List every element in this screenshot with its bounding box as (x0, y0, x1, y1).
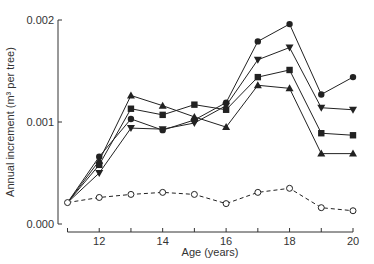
circle-marker-icon (286, 21, 292, 27)
square-marker-icon (223, 107, 229, 113)
circle-marker-icon (128, 116, 134, 122)
triangle-down-marker-icon (349, 107, 357, 114)
series-group (65, 21, 358, 214)
x-tick-label: 20 (347, 235, 359, 247)
circle-marker-icon (255, 38, 261, 44)
y-axis-label: Annual increment (m³ per tree) (4, 47, 16, 197)
chart: 0.0000.0010.0021214161820 Age (years) An… (0, 0, 374, 264)
open-circle-marker-icon (255, 189, 261, 195)
open-circle-marker-icon (128, 191, 134, 197)
square-marker-icon (159, 112, 165, 118)
triangle-down-marker-icon (286, 45, 294, 52)
open-circle-marker-icon (350, 208, 356, 214)
triangle-down-marker-icon (254, 57, 262, 64)
y-tick-label: 0.002 (26, 14, 54, 26)
open-circle-marker-icon (223, 201, 229, 207)
x-tick-label: 14 (157, 235, 169, 247)
axes: 0.0000.0010.0021214161820 (26, 14, 359, 247)
square-marker-icon (191, 101, 197, 107)
open-circle-marker-icon (160, 189, 166, 195)
line-chart: 0.0000.0010.0021214161820 Age (years) An… (0, 0, 374, 264)
square-marker-icon (318, 130, 324, 136)
square-marker-icon (286, 67, 292, 73)
open-circle-marker-icon (191, 191, 197, 197)
y-tick-label: 0.000 (26, 218, 54, 230)
x-tick-label: 18 (283, 235, 295, 247)
series-square-filled (68, 67, 357, 203)
y-tick-label: 0.001 (26, 116, 54, 128)
open-circle-marker-icon (287, 185, 293, 191)
series-line (68, 24, 354, 203)
series-line (68, 70, 354, 203)
series-circle-filled (68, 21, 357, 203)
square-marker-icon (255, 74, 261, 80)
x-tick-label: 12 (93, 235, 105, 247)
series-circle-open (65, 185, 357, 213)
series-triangle-up-filled (68, 81, 358, 202)
circle-marker-icon (318, 91, 324, 97)
open-circle-marker-icon (96, 194, 102, 200)
square-marker-icon (350, 132, 356, 138)
square-marker-icon (128, 106, 134, 112)
open-circle-marker-icon (318, 205, 324, 211)
triangle-up-marker-icon (254, 81, 262, 88)
triangle-up-marker-icon (127, 91, 135, 98)
open-circle-marker-icon (65, 200, 71, 206)
circle-marker-icon (350, 74, 356, 80)
series-triangle-down-filled (68, 45, 358, 203)
series-line (68, 188, 354, 210)
x-axis-label: Age (years) (182, 246, 239, 258)
